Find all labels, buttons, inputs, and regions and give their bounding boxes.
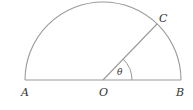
semicircle-diagram: A O B C θ [0,0,193,110]
label-C: C [159,12,168,25]
angle-theta-arc [123,59,132,80]
label-A: A [20,86,29,99]
radius-OC [103,24,157,80]
semicircle-arc [25,2,181,80]
label-O: O [99,86,108,99]
label-B: B [175,86,184,99]
label-theta: θ [117,67,123,77]
